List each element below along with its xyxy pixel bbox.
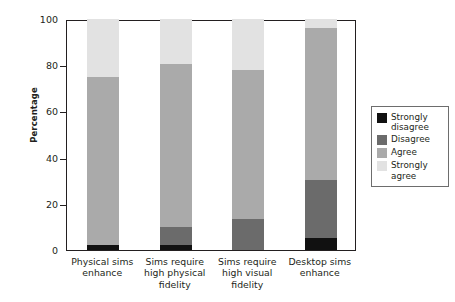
bar-segment-agree xyxy=(87,77,119,246)
bar-segment-disagree xyxy=(305,180,337,239)
bar-segment-strongly-agree xyxy=(160,19,192,64)
chart-legend: StronglydisagreeDisagreeAgreeStronglyagr… xyxy=(371,106,449,187)
bar-segment-strongly-disagree xyxy=(87,245,119,250)
bar-segment-strongly-agree xyxy=(87,19,119,77)
bar-segment-agree xyxy=(232,70,264,219)
legend-item-disagree[interactable]: Disagree xyxy=(377,134,444,145)
x-axis-label-line: fidelity xyxy=(199,279,295,290)
legend-item-strongly-disagree[interactable]: Stronglydisagree xyxy=(377,112,444,132)
plot-area xyxy=(66,20,356,251)
bar-2 xyxy=(160,19,192,250)
legend-label-line: Strongly xyxy=(391,160,428,170)
x-axis-label-4: Desktop simsenhance xyxy=(272,256,368,279)
bar-segment-strongly-disagree xyxy=(305,238,337,250)
bar-segment-agree xyxy=(160,64,192,227)
bar-4 xyxy=(305,19,337,250)
legend-label-line: Strongly xyxy=(391,112,429,122)
legend-label-line: agree xyxy=(391,171,428,181)
legend-label: Agree xyxy=(391,147,417,157)
plot-inner xyxy=(67,21,355,250)
bar-segment-strongly-disagree xyxy=(160,245,192,250)
y-tick-label: 40 xyxy=(18,153,58,164)
y-tick-label: 20 xyxy=(18,199,58,210)
stacked-bar-chart: Percentage 100806040200 Physical simsenh… xyxy=(0,0,455,302)
y-tick-label: 0 xyxy=(18,245,58,256)
y-tick-label: 80 xyxy=(18,60,58,71)
x-axis-label-line: Desktop sims xyxy=(272,256,368,267)
legend-swatch xyxy=(377,148,387,158)
bar-1 xyxy=(87,19,119,250)
legend-swatch xyxy=(377,161,387,171)
legend-swatch xyxy=(377,113,387,123)
legend-label: Disagree xyxy=(391,134,430,144)
legend-label: Stronglydisagree xyxy=(391,112,429,132)
x-axis-label-line: enhance xyxy=(272,267,368,278)
bar-segment-agree xyxy=(305,28,337,179)
legend-swatch xyxy=(377,135,387,145)
legend-label: Stronglyagree xyxy=(391,160,428,180)
legend-label-line: disagree xyxy=(391,122,429,132)
bar-segment-strongly-agree xyxy=(232,19,264,70)
bar-3 xyxy=(232,19,264,250)
bar-segment-strongly-agree xyxy=(305,19,337,28)
legend-item-strongly-agree[interactable]: Stronglyagree xyxy=(377,160,444,180)
legend-item-agree[interactable]: Agree xyxy=(377,147,444,158)
y-tick-label: 100 xyxy=(18,14,58,25)
legend-label-line: Disagree xyxy=(391,134,430,144)
y-tick-label: 60 xyxy=(18,106,58,117)
bar-segment-disagree xyxy=(160,227,192,245)
bar-segment-disagree xyxy=(232,219,264,250)
legend-label-line: Agree xyxy=(391,147,417,157)
